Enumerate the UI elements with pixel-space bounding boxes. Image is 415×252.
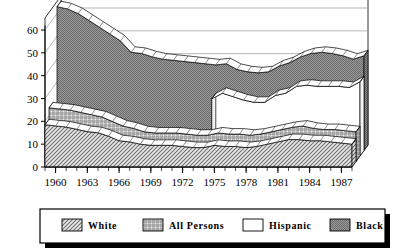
x-axis: 1960196319661969197219751978198119841987 bbox=[45, 167, 353, 188]
poverty-rate-area-chart: 0102030405060 19601963196619691972197519… bbox=[0, 0, 415, 252]
y-axis: 0102030405060 bbox=[27, 24, 45, 173]
x-axis-tick-label: 1963 bbox=[76, 176, 99, 188]
y-axis-tick-label: 10 bbox=[27, 138, 39, 150]
x-axis-tick-label: 1984 bbox=[299, 176, 322, 188]
x-axis-tick-label: 1975 bbox=[203, 176, 226, 188]
legend-item-hispanic[interactable]: Hispanic bbox=[243, 219, 312, 231]
legend-item-white[interactable]: White bbox=[62, 219, 117, 231]
legend-swatch-black bbox=[330, 219, 350, 231]
legend-label: Black bbox=[356, 220, 383, 231]
y-axis-tick-label: 30 bbox=[27, 93, 39, 105]
chart-legend: WhiteAll PersonsHispanicBlack bbox=[40, 209, 390, 248]
legend-label: Hispanic bbox=[269, 220, 312, 231]
x-axis-tick-label: 1987 bbox=[330, 176, 353, 188]
x-axis-tick-label: 1960 bbox=[45, 176, 68, 188]
x-axis-tick-label: 1972 bbox=[172, 176, 194, 188]
legend-swatch-hispanic bbox=[243, 219, 263, 231]
chart-stage: 0102030405060 19601963196619691972197519… bbox=[0, 0, 415, 252]
y-axis-tick-label: 0 bbox=[33, 161, 39, 173]
legend-item-all-persons[interactable]: All Persons bbox=[143, 219, 224, 231]
legend-label: White bbox=[88, 220, 117, 231]
x-axis-tick-label: 1978 bbox=[235, 176, 258, 188]
x-axis-tick-label: 1981 bbox=[267, 176, 289, 188]
x-axis-tick-label: 1969 bbox=[140, 176, 163, 188]
y-axis-tick-label: 40 bbox=[27, 70, 39, 82]
x-axis-tick-label: 1966 bbox=[108, 176, 131, 188]
legend-swatch-white bbox=[62, 219, 82, 231]
y-axis-tick-label: 20 bbox=[27, 115, 39, 127]
legend-item-black[interactable]: Black bbox=[330, 219, 383, 231]
y-axis-tick-label: 50 bbox=[27, 47, 39, 59]
legend-label: All Persons bbox=[169, 220, 224, 231]
y-axis-tick-label: 60 bbox=[27, 24, 39, 36]
legend-swatch-all-persons bbox=[143, 219, 163, 231]
